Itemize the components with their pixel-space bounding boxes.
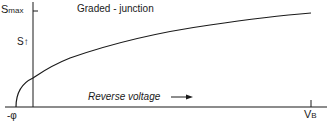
minus-phi-label: -φ [7, 110, 17, 121]
s-curve [16, 13, 311, 107]
y-axis-label: S↑ [17, 36, 29, 47]
graded-junction-diagram: Smax Graded - junction S↑ Reverse voltag… [0, 0, 329, 123]
plot-axes-and-curve [0, 0, 329, 123]
x-axis-label: Reverse voltage [88, 91, 160, 102]
vb-label: VB [304, 108, 317, 120]
chart-title: Graded - junction [77, 3, 154, 14]
smax-label: Smax [1, 3, 23, 15]
arrow-head-icon [186, 95, 193, 100]
